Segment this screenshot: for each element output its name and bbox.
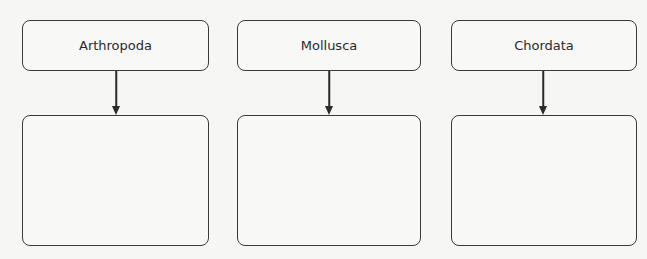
column-arthropoda: Arthropoda (22, 0, 209, 259)
arrow-connector (542, 71, 544, 108)
phylum-label: Arthropoda (79, 38, 152, 53)
phylum-label: Mollusca (301, 38, 358, 53)
phylum-label: Chordata (514, 38, 574, 53)
phylum-box-arthropoda: Arthropoda (22, 20, 209, 71)
arrow-head-icon (112, 106, 120, 115)
empty-answer-box-mollusca (237, 115, 421, 246)
arrow-connector (328, 71, 330, 108)
arrow-head-icon (325, 106, 333, 115)
phylum-box-chordata: Chordata (451, 20, 637, 71)
arrow-connector (115, 71, 117, 108)
column-chordata: Chordata (451, 0, 637, 259)
phylum-box-mollusca: Mollusca (237, 20, 421, 71)
empty-answer-box-chordata (451, 115, 637, 246)
empty-answer-box-arthropoda (22, 115, 209, 246)
column-mollusca: Mollusca (237, 0, 421, 259)
arrow-head-icon (539, 106, 547, 115)
